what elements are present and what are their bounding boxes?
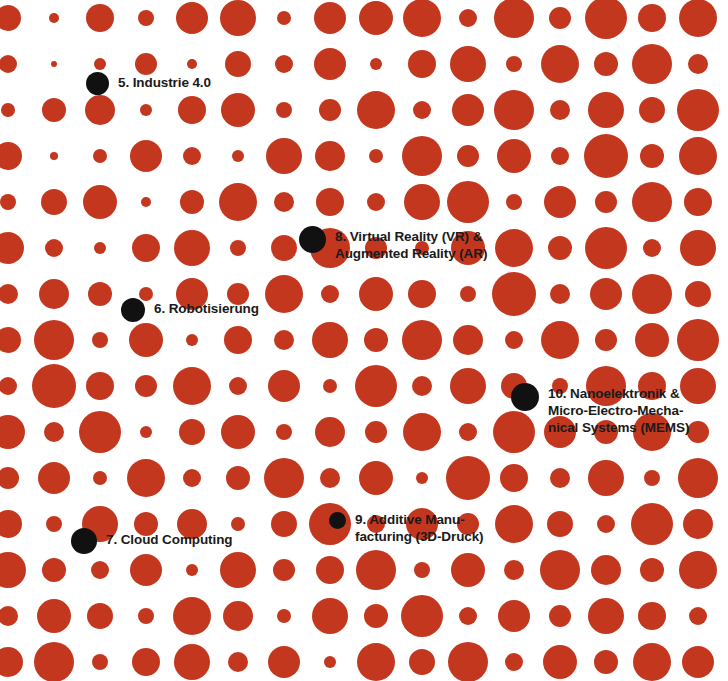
grid-dot <box>550 284 570 304</box>
grid-dot <box>506 56 522 72</box>
grid-dot <box>315 417 345 447</box>
grid-dot <box>0 284 18 304</box>
grid-dot <box>94 58 106 70</box>
grid-dot <box>0 142 22 170</box>
grid-dot <box>414 562 430 578</box>
grid-dot <box>93 149 107 163</box>
grid-dot <box>130 140 162 172</box>
grid-dot <box>266 138 302 174</box>
grid-dot <box>173 367 211 405</box>
grid-dot <box>505 653 523 671</box>
grid-dot <box>588 92 624 128</box>
grid-dot <box>453 325 483 355</box>
grid-dot <box>79 411 121 453</box>
grid-dot <box>632 274 672 314</box>
marker-dot-robotisierung[interactable] <box>121 298 145 322</box>
grid-dot <box>0 647 23 677</box>
grid-dot <box>176 2 208 34</box>
grid-dot <box>312 322 348 358</box>
grid-dot <box>679 137 717 175</box>
grid-dot <box>51 61 57 67</box>
grid-dot <box>640 144 664 168</box>
grid-dot <box>638 4 666 32</box>
marker-industrie-40[interactable]: 5. Industrie 4.0 <box>86 72 211 95</box>
grid-dot <box>44 422 64 442</box>
grid-dot <box>319 99 341 121</box>
grid-dot <box>138 608 154 624</box>
grid-dot <box>173 597 211 635</box>
grid-dot <box>186 564 198 576</box>
marker-dot-virtual-augmented-reality[interactable] <box>299 226 326 253</box>
grid-dot <box>640 558 664 582</box>
grid-dot <box>447 181 489 223</box>
grid-dot <box>357 643 395 681</box>
grid-dot <box>687 421 709 443</box>
grid-dot <box>86 372 114 400</box>
grid-dot <box>590 278 622 310</box>
grid-dot <box>549 7 571 29</box>
grid-dot <box>94 242 106 254</box>
grid-dot <box>595 191 617 213</box>
marker-label-nanoelektronik-mems: 10. Nanoelektronik & Micro-Electro-Mecha… <box>548 385 689 436</box>
grid-dot <box>404 184 440 220</box>
grid-dot <box>224 326 252 354</box>
grid-dot <box>584 134 628 178</box>
marker-robotisierung[interactable]: 6. Robotisierung <box>121 298 259 322</box>
grid-dot <box>689 607 707 625</box>
grid-dot <box>548 236 572 260</box>
marker-dot-industrie-40[interactable] <box>86 72 109 95</box>
grid-dot <box>408 280 436 308</box>
grid-dot <box>644 470 660 486</box>
grid-dot <box>316 556 344 584</box>
grid-dot <box>550 468 570 488</box>
grid-dot <box>174 644 210 680</box>
grid-dot <box>314 2 346 34</box>
grid-dot <box>274 192 294 212</box>
grid-dot <box>369 149 383 163</box>
grid-dot <box>221 93 255 127</box>
grid-dot <box>50 152 58 160</box>
grid-dot <box>132 234 160 262</box>
grid-dot <box>597 515 615 533</box>
grid-dot <box>359 461 393 495</box>
grid-dot <box>452 94 484 126</box>
marker-nanoelektronik-mems[interactable]: 10. Nanoelektronik & Micro-Electro-Mecha… <box>511 383 689 436</box>
marker-dot-nanoelektronik-mems[interactable] <box>511 383 539 411</box>
grid-dot <box>402 320 442 360</box>
grid-dot <box>273 559 295 581</box>
grid-dot <box>505 331 523 349</box>
grid-dot <box>179 419 205 445</box>
grid-dot <box>494 90 534 130</box>
marker-cloud-computing[interactable]: 7. Cloud Computing <box>71 528 232 554</box>
marker-additive-manufacturing[interactable]: 9. Additive Manu- facturing (3D-Druck) <box>329 512 484 545</box>
grid-dot <box>1 103 15 117</box>
grid-dot <box>34 642 74 681</box>
grid-dot <box>685 281 711 307</box>
grid-dot <box>635 323 669 357</box>
marker-label-industrie-40: 5. Industrie 4.0 <box>118 74 211 91</box>
grid-dot <box>506 194 522 210</box>
marker-virtual-augmented-reality[interactable]: 8. Virtual Reality (VR) & Augmented Real… <box>299 226 487 262</box>
grid-dot <box>0 55 17 73</box>
grid-dot <box>183 469 201 487</box>
grid-dot <box>364 328 388 352</box>
grid-dot <box>140 104 152 116</box>
grid-dot <box>680 230 716 266</box>
marker-label-robotisierung: 6. Robotisierung <box>154 300 259 317</box>
grid-dot <box>643 239 661 257</box>
grid-dot <box>37 599 71 633</box>
marker-dot-cloud-computing[interactable] <box>71 528 97 554</box>
grid-dot <box>497 139 531 173</box>
grid-dot <box>448 642 488 681</box>
grid-dot <box>268 370 300 402</box>
grid-dot <box>129 323 163 357</box>
grid-dot <box>265 275 303 313</box>
grid-dot <box>0 5 21 31</box>
grid-dot <box>0 415 25 449</box>
grid-dot <box>679 551 717 589</box>
grid-dot <box>229 377 247 395</box>
marker-dot-additive-manufacturing[interactable] <box>329 512 346 529</box>
grid-dot <box>135 375 157 397</box>
grid-dot <box>543 645 577 679</box>
grid-dot <box>595 329 617 351</box>
